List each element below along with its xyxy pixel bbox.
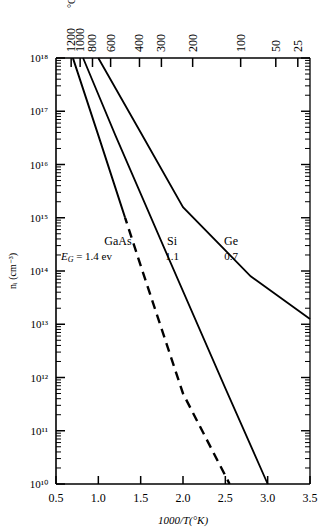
curve-gaas-solid [73,58,230,484]
curve-label-gaas: GaAs [104,234,132,248]
y-tick-label: 10¹³ [30,318,48,330]
top-tick-label: 800 [85,34,99,52]
figure-intrinsic-carrier-concentration: 120010008006004003002001005025 °C 10¹⁸10… [0,0,331,532]
y-tick-label: 10¹⁸ [30,52,48,64]
top-tick-label: 300 [154,34,168,52]
top-axis-ticks [71,58,298,67]
y-tick-label: 10¹⁵ [30,212,48,224]
y-axis-tick-labels: 10¹⁸10¹⁷10¹⁶10¹⁵10¹⁴10¹³10¹²10¹¹10¹⁰ [30,52,49,490]
x-tick-label: 2.0 [176,491,191,505]
top-tick-label: 400 [132,34,146,52]
curve-ge [98,58,310,319]
top-tick-label: 200 [186,34,200,52]
x-tick-label: 3.5 [303,491,318,505]
y-tick-label: 10¹² [30,372,48,384]
x-tick-label: 1.5 [133,491,148,505]
data-curves [73,58,310,484]
top-axis-tick-labels: 120010008006004003002001005025 [64,28,305,52]
curve-si [83,58,268,484]
y-tick-label: 10¹⁰ [30,478,49,490]
top-tick-label: 600 [104,34,118,52]
y-tick-label: 10¹¹ [30,425,48,437]
top-tick-label: 50 [269,40,283,52]
top-tick-label: 25 [291,40,305,52]
top-axis-unit-label: °C [66,0,77,8]
x-tick-label: 1.0 [91,491,106,505]
top-tick-label: 100 [234,34,248,52]
curve-gaas-dashed [73,58,230,484]
x-tick-label: 3.0 [260,491,275,505]
y-axis-title: nᵢ (cm⁻³) [7,253,19,289]
curve-labels: GaAsEG = 1.4 evSi1.1Ge0.7 [60,234,238,264]
curve-label-si: Si [167,234,178,248]
chart-canvas: 120010008006004003002001005025 °C 10¹⁸10… [0,0,331,532]
bandgap-label-gaas: EG = 1.4 ev [60,250,113,264]
bandgap-label-si: 1.1 [165,250,179,262]
x-axis-ticks [56,476,310,484]
x-axis-title: 1000/T(°K) [158,514,209,527]
y-tick-label: 10¹⁶ [30,159,48,171]
y-tick-label: 10¹⁴ [30,265,48,277]
curve-label-ge: Ge [224,234,238,248]
x-tick-label: 2.5 [218,491,233,505]
x-tick-label: 0.5 [49,491,64,505]
bandgap-label-ge: 0.7 [224,250,238,262]
x-axis-tick-labels: 0.51.01.52.02.53.03.5 [49,491,318,505]
y-tick-label: 10¹⁷ [30,105,48,117]
